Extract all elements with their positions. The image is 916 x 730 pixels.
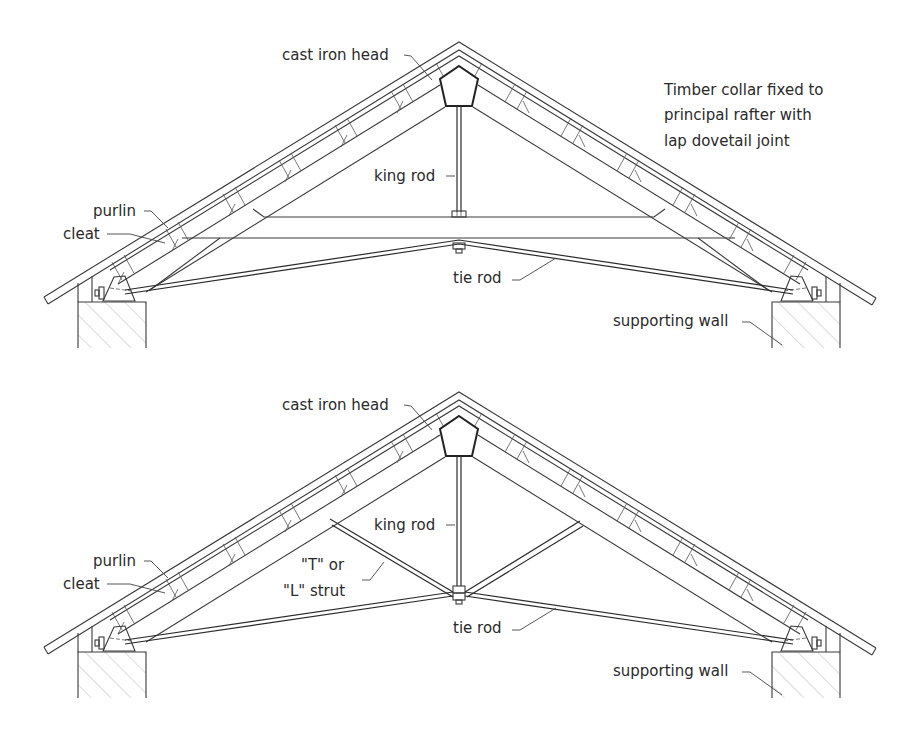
king-rod: [452, 106, 466, 253]
svg-text:"L" strut: "L" strut: [283, 582, 345, 600]
label-cast-iron-head: cast iron head: [282, 396, 389, 414]
label-king-rod: king rod: [374, 516, 435, 534]
label-cast-iron-head: cast iron head: [282, 46, 389, 64]
truss-diagram-top: cast iron head king rod purlin cleat tie…: [44, 42, 876, 348]
truss-diagram-bottom: cast iron head king rod purlin cleat "T"…: [44, 392, 876, 698]
label-purlin: purlin: [93, 202, 136, 220]
label-strut: "T" or "L" strut: [283, 556, 345, 600]
label-purlin: purlin: [93, 552, 136, 570]
label-tie-rod: tie rod: [453, 619, 502, 637]
label-cleat: cleat: [63, 225, 100, 243]
label-tie-rod: tie rod: [453, 269, 502, 287]
svg-text:"T" or: "T" or: [301, 556, 345, 574]
timber-collar: [253, 209, 665, 217]
label-supporting-wall: supporting wall: [613, 662, 728, 680]
svg-text:Timber collar fixed to: Timber collar fixed to: [663, 81, 824, 99]
label-cleat: cleat: [63, 575, 100, 593]
svg-text:lap dovetail joint: lap dovetail joint: [664, 132, 790, 150]
king-rod: [453, 456, 465, 604]
label-king-rod: king rod: [374, 167, 435, 185]
label-supporting-wall: supporting wall: [613, 312, 728, 330]
strut-right: [465, 521, 583, 597]
truss-diagram-canvas: cast iron head king rod purlin cleat tie…: [0, 0, 916, 730]
note-timber-collar: Timber collar fixed to principal rafter …: [663, 81, 824, 150]
svg-text:principal rafter with: principal rafter with: [664, 106, 812, 124]
